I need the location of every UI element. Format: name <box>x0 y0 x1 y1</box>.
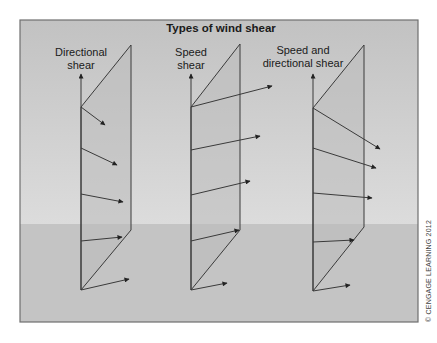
panel-label: Speedshear <box>175 46 207 71</box>
wind-shear-diagram: Types of wind shear DirectionalshearSpee… <box>0 0 437 343</box>
copyright-credit: © CENGAGE LEARNING 2012 <box>425 220 432 322</box>
figure-title: Types of wind shear <box>166 22 276 34</box>
